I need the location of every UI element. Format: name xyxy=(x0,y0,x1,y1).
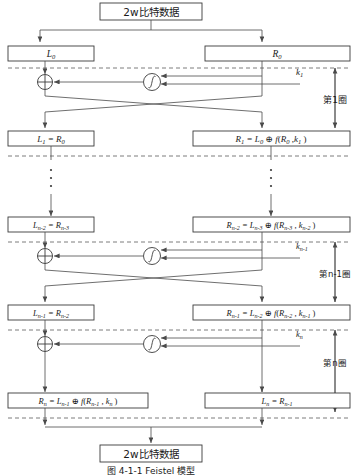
f-function-icon-2 xyxy=(144,248,161,265)
top-data-block-label: 2w比特数据 xyxy=(123,6,179,18)
key-kn1-label: kn-1 xyxy=(296,241,308,252)
key-k1-label: k1 xyxy=(296,67,303,78)
box-L1: L1 = R0 xyxy=(8,131,94,146)
box-Rn1-label: Rn-1 = Ln-2 ⊕ f(Rn-2 , kn-1 ) xyxy=(226,308,316,319)
box-L0: L0 xyxy=(8,46,94,61)
vertical-ellipsis-icon-right xyxy=(270,169,272,187)
round-1-group: k1 第1圈 xyxy=(8,61,350,128)
key-kn-label: kn xyxy=(296,329,303,340)
round-n-label: 第n圈 xyxy=(323,358,346,368)
round-n-minus-1-group: kn-1 第n-1圈 xyxy=(8,232,351,302)
box-Rn-label: Rn = Ln-1 ⊕ f(Rn-1 , kn ) xyxy=(38,396,118,407)
box-Ln1: Ln-1 = Rn-2 xyxy=(8,305,94,320)
bottom-data-block: 2w比特数据 xyxy=(100,445,202,462)
xor-circle-icon-2 xyxy=(38,249,53,264)
f-function-icon-1 xyxy=(144,74,161,91)
box-Rn2-label: Rn-2 = Ln-3 ⊕ f(Rn-3 , kn-2 ) xyxy=(226,220,316,231)
f-function-icon-3 xyxy=(144,336,161,353)
box-L1-label: L1 = R0 xyxy=(36,134,65,145)
box-Ln: Ln = Rn-1 xyxy=(205,393,350,408)
box-R1: R1 = L0 ⊕ f(R0 ,k1 ) xyxy=(193,131,350,146)
box-Rn1: Rn-1 = Ln-2 ⊕ f(Rn-2 , kn-1 ) xyxy=(193,305,350,320)
xor-circle-icon-1 xyxy=(38,75,53,90)
xor-circle-icon-3 xyxy=(38,337,53,352)
figure-caption: 图 4-1-1 Feistel 模型 xyxy=(107,466,195,475)
round-1-label: 第1圈 xyxy=(323,94,347,105)
bottom-merge-connector xyxy=(45,408,262,443)
round-n-minus-1-label: 第n-1圈 xyxy=(319,269,351,279)
figure-caption-label: 图 4-1-1 Feistel 模型 xyxy=(107,466,195,475)
box-Rn2: Rn-2 = Ln-3 ⊕ f(Rn-3 , kn-2 ) xyxy=(193,217,350,232)
top-split-connector xyxy=(40,20,262,42)
bottom-data-block-label: 2w比特数据 xyxy=(123,448,179,460)
top-data-block: 2w比特数据 xyxy=(100,3,202,20)
box-Rn: Rn = Ln-1 ⊕ f(Rn-1 , kn ) xyxy=(8,393,148,408)
ellipsis-region xyxy=(50,146,272,216)
feistel-diagram-figure: 2w比特数据 L0 R0 xyxy=(0,0,358,475)
box-Ln2: Ln-2 = Rn-3 xyxy=(8,217,94,232)
box-R0: R0 xyxy=(205,46,350,61)
box-R1-label: R1 = L0 ⊕ f(R0 ,k1 ) xyxy=(235,134,307,145)
vertical-ellipsis-icon-left xyxy=(50,169,52,187)
